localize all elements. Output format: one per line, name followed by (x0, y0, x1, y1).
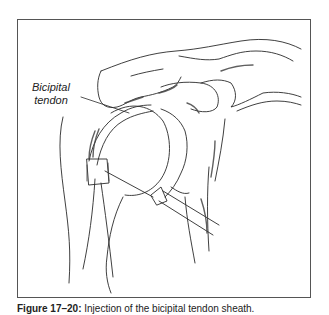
figure-caption: Figure 17–20: Injection of the bicipital… (17, 303, 329, 315)
syringe-barrel-top (163, 191, 219, 225)
needle (105, 171, 153, 197)
glenoid (161, 109, 187, 197)
humerus-medial (106, 197, 123, 293)
figure-number: Figure 17–20: (17, 303, 81, 314)
shoulder-injection-illustration (1, 1, 329, 313)
humeral-head (111, 106, 170, 195)
label-line-1: Bicipital (32, 81, 70, 94)
coracoid-process (161, 82, 218, 112)
clavicle-outline (101, 39, 301, 71)
syringe-hub (151, 187, 167, 205)
bicipital-tendon-label: Bicipital tendon (32, 81, 70, 107)
tendon-sheath (87, 159, 109, 185)
caption-text: Injection of the bicipital tendon sheath… (81, 303, 254, 314)
acromion (98, 71, 181, 108)
clavicle-lower (179, 51, 293, 61)
humerus-lateral (60, 117, 70, 283)
figure-frame: Bicipital tendon (17, 19, 311, 298)
label-line-2: tendon (32, 94, 70, 107)
